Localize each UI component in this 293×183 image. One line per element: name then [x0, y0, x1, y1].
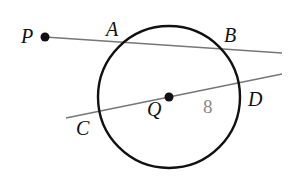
geometry-diagram: P A B Q 8 D C [0, 0, 293, 183]
label-A: A [104, 18, 119, 40]
label-D: D [247, 88, 263, 110]
label-C: C [76, 117, 90, 139]
label-radius-8: 8 [203, 96, 213, 117]
point-Q-dot [165, 93, 174, 102]
secant-line-PB [45, 37, 282, 53]
label-P: P [20, 25, 33, 47]
label-Q: Q [147, 98, 162, 120]
label-B: B [224, 24, 236, 46]
point-P-dot [41, 33, 50, 42]
